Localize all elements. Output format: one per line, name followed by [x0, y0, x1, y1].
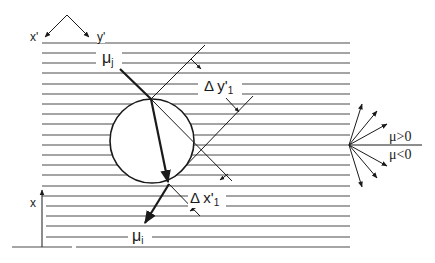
- mu-positive-label: μ>0: [389, 130, 411, 144]
- y-prime-axis-label: y': [97, 31, 105, 43]
- delta-y-prime-label: Δ y'1: [202, 78, 235, 96]
- mu-j-subscript: j: [111, 57, 113, 68]
- mu-i-label: μi: [130, 228, 145, 246]
- mu-negative-label: μ<0: [389, 148, 411, 162]
- rotated-axes: [45, 15, 89, 37]
- diagram-graphics: [0, 0, 435, 263]
- mu-i-subscript: i: [141, 235, 143, 246]
- x-prime-axis-label: x': [30, 31, 38, 43]
- direction-fan: [349, 104, 422, 187]
- mu-j-label: μj: [100, 50, 115, 68]
- diagram-canvas: x' y' x μj μi Δ y'1 Δ x'1 μ>0 μ<0: [0, 0, 435, 263]
- mu-j-symbol: μ: [102, 49, 111, 66]
- mu-i-symbol: μ: [132, 227, 141, 244]
- delta-y-prime-subscript: 1: [228, 85, 234, 96]
- delta-x-prime-text: Δ x': [190, 189, 214, 206]
- delta-x-prime-label: Δ x'1: [188, 190, 221, 208]
- x-axis-label: x: [30, 197, 36, 209]
- delta-y-prime-text: Δ y': [204, 77, 228, 94]
- delta-x-prime-subscript: 1: [214, 197, 220, 208]
